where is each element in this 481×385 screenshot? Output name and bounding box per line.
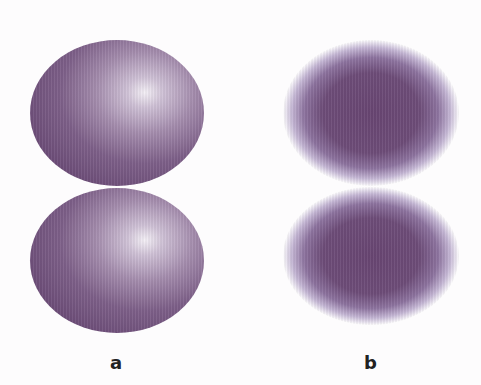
soft-oval-bottom	[283, 187, 459, 325]
panel-label-a: a	[110, 352, 122, 373]
shaded-oval-top	[30, 40, 204, 186]
soft-oval-top	[283, 40, 459, 186]
shaded-oval-bottom	[30, 188, 204, 333]
panel-label-b: b	[364, 352, 377, 373]
